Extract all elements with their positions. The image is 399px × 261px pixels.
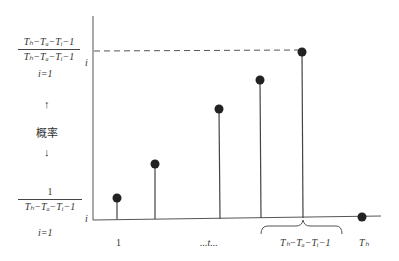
x-label-range: Tₕ−Tₐ−Tᵢ−1	[280, 237, 330, 248]
x-axis	[93, 216, 381, 220]
stems	[117, 52, 303, 219]
brace	[261, 220, 342, 234]
x-label-t: ...t...	[200, 237, 218, 248]
x-label-th: Tₕ	[359, 237, 369, 248]
x-label-1: 1	[116, 237, 121, 248]
max-dashed-line	[94, 50, 302, 51]
data-points	[113, 48, 367, 222]
stem-chart	[0, 0, 399, 261]
